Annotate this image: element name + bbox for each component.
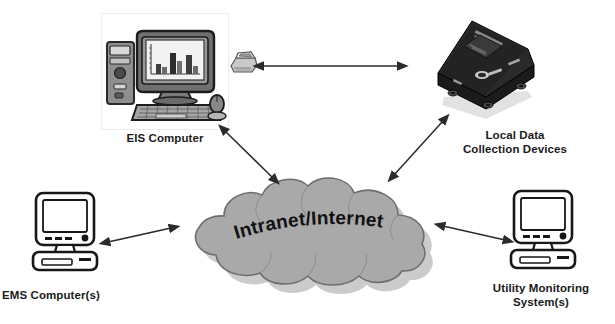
data-logger-box-icon — [424, 13, 540, 120]
desktop-computer-with-bar-chart-icon — [104, 20, 226, 125]
modem-icon — [228, 47, 260, 77]
arrow-eis-to-cloud — [225, 131, 273, 178]
ems-computers-label: EMS Computer(s) — [2, 288, 132, 302]
arrow-local-device-to-cloud — [394, 121, 443, 175]
utility-monitoring-system-node[interactable] — [508, 188, 580, 273]
intranet-internet-cloud[interactable]: Intranet/Internet — [162, 172, 454, 294]
local-data-collection-devices-label: Local Data Collection Devices — [440, 128, 590, 156]
cloud-shape: Intranet/Internet — [162, 172, 454, 294]
modem-device-node[interactable] — [228, 47, 260, 77]
crt-monitor-icon — [30, 190, 102, 275]
ems-computer-node[interactable] — [30, 190, 102, 275]
crt-monitor-icon — [508, 188, 580, 273]
utility-monitoring-systems-label: Utility Monitoring System(s) — [468, 281, 614, 309]
local-data-collection-device-node[interactable] — [424, 13, 540, 120]
eis-computer-node[interactable] — [104, 20, 226, 125]
network-diagram: EIS Computer — [0, 0, 615, 324]
eis-computer-label: EIS Computer — [100, 131, 230, 145]
